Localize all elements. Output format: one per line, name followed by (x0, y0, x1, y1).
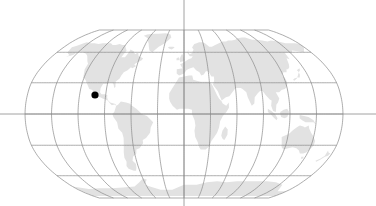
landmass-tasmania (301, 157, 304, 159)
landmass-sumatra (268, 109, 278, 120)
landmass-new-guinea (300, 115, 316, 124)
landmass-borneo (280, 109, 289, 118)
landmass-south-america (112, 102, 153, 171)
landmass-iceland (168, 47, 175, 50)
landmass-australia (282, 125, 315, 153)
world-map-svg (0, 0, 376, 206)
world-map-figure (0, 0, 376, 206)
marker-layer (91, 91, 98, 98)
land-layer (66, 33, 330, 196)
landmass-japan (293, 68, 300, 80)
landmass-madagascar (221, 127, 227, 141)
landmass-ireland (176, 57, 179, 60)
landmass-new-zealand (315, 150, 330, 161)
location-marker-dot[interactable] (91, 91, 98, 98)
